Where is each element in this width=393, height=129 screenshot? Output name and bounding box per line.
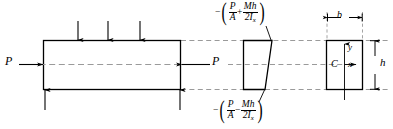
centroid-label: C bbox=[331, 59, 338, 69]
top-stress-term2: Mh2Ix bbox=[243, 2, 258, 23]
width-dimension-label: b bbox=[337, 10, 342, 20]
axial-load-label-left: P bbox=[5, 55, 12, 67]
top-stress-open-paren: ( bbox=[222, 2, 227, 23]
bottom-stress-open-paren: ( bbox=[220, 100, 225, 121]
bottom-stress-term2: Mh2Ix bbox=[241, 100, 256, 121]
bottom-stress-sign: − bbox=[213, 106, 218, 116]
bottom-stress-term1: PA bbox=[227, 100, 235, 121]
top-stress-close-paren: ) bbox=[259, 2, 264, 23]
height-dimension-label: h bbox=[380, 57, 386, 68]
support-reaction-arrows bbox=[45, 90, 180, 110]
axial-load-label-right: P bbox=[212, 55, 219, 67]
bottom-stress-close-paren: ) bbox=[257, 100, 262, 121]
top-stress-expression: −(PA+Mh2Ix) bbox=[215, 2, 266, 23]
axis-y-label: y bbox=[348, 43, 352, 52]
height-dimension bbox=[370, 41, 380, 90]
centroidal-axes bbox=[345, 44, 357, 100]
leader-line-top bbox=[266, 26, 271, 40]
engineering-figure: P P b h C x y −(PA+Mh2Ix) −(PA−Mh2Ix) bbox=[0, 0, 393, 129]
width-dimension bbox=[327, 12, 363, 40]
top-stress-term1: PA bbox=[229, 2, 237, 23]
top-stress-sign: − bbox=[215, 8, 220, 18]
axis-x-label: x bbox=[348, 60, 352, 69]
distributed-load-arrows bbox=[78, 21, 140, 40]
bottom-stress-expression: −(PA−Mh2Ix) bbox=[213, 100, 264, 121]
